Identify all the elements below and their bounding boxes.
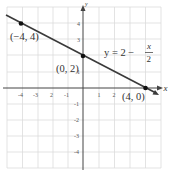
point-label-0-2: (0, 2) [56,63,79,75]
x-tick: 1 [98,92,101,98]
point-0-2 [81,54,86,59]
point-label-neg4-4: (−4, 4) [10,31,39,43]
y-tick: -4 [74,149,79,155]
x-axis-label: x [163,83,168,93]
x-tick-labels: -4 -3 2 -1 1 2 [18,92,116,98]
x-tick: -3 [33,92,38,98]
equation-numerator: x [146,41,151,51]
point-label-4-0: (4, 0) [122,91,145,103]
y-axis-label: y [84,1,88,7]
y-tick: -2 [74,117,79,123]
x-axis-arrow-icon [157,86,163,91]
y-tick: -3 [74,133,79,139]
y-tick: 3 [77,37,80,43]
equation-lhs: y = 2 − [104,47,134,58]
x-tick: 2 [50,92,53,98]
x-tick: -4 [18,92,23,98]
y-tick: -1 [74,101,79,107]
equation-denominator: 2 [147,54,152,64]
point-4-0 [143,86,148,91]
x-tick: 2 [113,92,116,98]
x-tick: -1 [64,92,69,98]
point-neg4-4 [19,21,24,26]
coordinate-plane: x y -4 -3 2 -1 1 2 4 3 1 -1 -2 -3 -4 (−4… [0,0,170,173]
y-tick: 4 [77,21,80,27]
